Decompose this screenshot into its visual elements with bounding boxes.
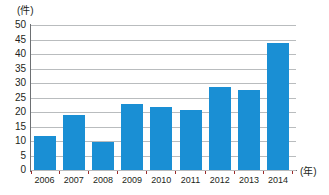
y-axis-tick-label: 40 — [2, 49, 26, 59]
x-axis-tick-mark — [292, 171, 293, 174]
y-axis-tick-label: 15 — [2, 122, 26, 132]
y-axis-unit-label: (件) — [17, 5, 34, 16]
x-axis-tick-mark — [31, 171, 32, 174]
bar-chart: (件) (年) 50454035302520151050200620072008… — [0, 0, 329, 195]
bar — [150, 107, 172, 170]
y-axis-tick-label: 20 — [2, 107, 26, 117]
y-axis-tick-label: 35 — [2, 64, 26, 74]
bar — [34, 136, 56, 170]
gridline — [31, 69, 296, 70]
bar — [267, 43, 289, 170]
y-axis-tick-label: 30 — [2, 78, 26, 88]
x-axis-tick-mark — [146, 171, 147, 174]
x-axis-tick-mark — [88, 171, 89, 174]
y-axis-tick-label: 45 — [2, 35, 26, 45]
bar — [238, 90, 260, 170]
y-axis-tick-label: 5 — [2, 151, 26, 161]
y-axis-tick-label: 25 — [2, 93, 26, 103]
bar — [63, 115, 85, 170]
plot-area — [31, 25, 296, 170]
bar — [121, 104, 143, 170]
x-axis-tick-mark — [59, 171, 60, 174]
gridline — [31, 25, 296, 26]
x-axis-unit-label: (年) — [300, 166, 317, 177]
x-axis-tick-mark — [175, 171, 176, 174]
bar — [209, 87, 231, 170]
x-axis-tick-label: 2014 — [261, 175, 295, 185]
gridline — [31, 54, 296, 55]
x-axis-tick-mark — [205, 171, 206, 174]
x-axis-tick-mark — [234, 171, 235, 174]
y-axis-tick-label: 0 — [2, 165, 26, 175]
gridline — [31, 40, 296, 41]
x-axis-tick-mark — [117, 171, 118, 174]
y-axis-tick-label: 50 — [2, 20, 26, 30]
gridline — [31, 170, 296, 171]
gridline — [31, 83, 296, 84]
bar — [180, 110, 202, 170]
y-axis-tick-label: 10 — [2, 136, 26, 146]
x-axis-tick-mark — [263, 171, 264, 174]
bar — [92, 142, 114, 170]
